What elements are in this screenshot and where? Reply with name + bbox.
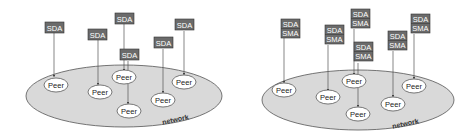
right-diagram: network SDA SMA SDA SMA SDA SMA: [262, 9, 454, 130]
svg-text:Peer: Peer: [116, 73, 132, 82]
sda-box: SDA: [120, 49, 139, 60]
svg-text:SDA: SDA: [156, 39, 171, 48]
svg-text:SDA: SDA: [327, 26, 342, 35]
svg-text:SDA: SDA: [283, 20, 298, 29]
svg-text:Peer: Peer: [48, 81, 64, 90]
svg-text:SDA: SDA: [413, 15, 428, 24]
peer-node: Peer: [112, 70, 136, 84]
svg-text:Peer: Peer: [320, 93, 336, 102]
svg-text:SDA: SDA: [177, 21, 192, 30]
svg-text:SDA: SDA: [356, 43, 371, 52]
svg-text:SMA: SMA: [352, 19, 368, 28]
left-diagram: network SDA SDA SDA SDA SDA: [26, 13, 222, 127]
sda-sma-box: SDA SMA: [411, 14, 430, 33]
svg-text:Peer: Peer: [406, 82, 422, 91]
peer-node: Peer: [44, 78, 68, 92]
svg-text:SMA: SMA: [326, 35, 342, 44]
svg-text:SMA: SMA: [282, 29, 298, 38]
svg-text:SDA: SDA: [390, 32, 405, 41]
diagram-canvas: network SDA SDA SDA SDA SDA: [0, 0, 475, 137]
peer-node: Peer: [346, 107, 370, 121]
peer-node: Peer: [172, 75, 196, 89]
sda-sma-box: SDA SMA: [325, 25, 344, 44]
svg-text:Peer: Peer: [385, 100, 401, 109]
svg-text:SDA: SDA: [353, 10, 368, 19]
svg-text:Peer: Peer: [276, 86, 292, 95]
svg-text:Peer: Peer: [92, 88, 108, 97]
peer-node: Peer: [381, 97, 405, 111]
sda-box: SDA: [45, 22, 64, 33]
peer-node: Peer: [316, 90, 340, 104]
svg-text:Peer: Peer: [350, 110, 366, 119]
peer-node: Peer: [342, 74, 366, 88]
svg-text:SDA: SDA: [117, 15, 132, 24]
peer-node: Peer: [151, 93, 175, 107]
sda-box: SDA: [88, 29, 107, 40]
sda-sma-box: SDA SMA: [354, 42, 373, 61]
sda-sma-box: SDA SMA: [351, 9, 370, 28]
peer-node: Peer: [272, 83, 296, 97]
peer-node: Peer: [402, 79, 426, 93]
sda-sma-box: SDA SMA: [281, 19, 300, 38]
svg-text:SDA: SDA: [90, 31, 105, 40]
sda-box: SDA: [154, 37, 173, 48]
svg-text:Peer: Peer: [155, 96, 171, 105]
svg-text:SMA: SMA: [389, 41, 405, 50]
peer-node: Peer: [88, 85, 112, 99]
svg-text:SMA: SMA: [355, 52, 371, 61]
svg-text:Peer: Peer: [176, 78, 192, 87]
svg-text:SDA: SDA: [122, 51, 137, 60]
sda-box: SDA: [115, 13, 134, 24]
peer-node: Peer: [117, 104, 141, 118]
svg-text:SMA: SMA: [412, 24, 428, 33]
svg-text:SDA: SDA: [47, 24, 62, 33]
svg-text:Peer: Peer: [346, 77, 362, 86]
sda-sma-box: SDA SMA: [388, 31, 407, 50]
svg-text:Peer: Peer: [121, 107, 137, 116]
sda-box: SDA: [175, 19, 194, 30]
